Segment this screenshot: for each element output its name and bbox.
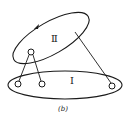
arrow-icon: [34, 24, 39, 29]
edge-line: [75, 32, 111, 83]
node-circle: [109, 83, 115, 89]
figure-caption: (b): [58, 105, 68, 113]
node-circle: [15, 81, 21, 87]
node-circle: [28, 49, 34, 55]
node-circle: [39, 81, 45, 87]
edge-line: [19, 55, 29, 81]
region-2-label: Ⅱ: [51, 33, 58, 44]
diagram-canvas: Ⅱ Ⅰ (b): [0, 0, 130, 127]
region-1-label: Ⅰ: [70, 75, 74, 86]
edge-line: [33, 55, 41, 81]
region-1-ellipse: [8, 71, 122, 99]
